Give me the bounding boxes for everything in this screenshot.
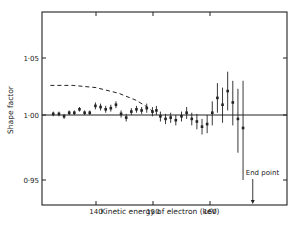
- data-point: [196, 114, 199, 129]
- data-point: [237, 89, 240, 153]
- data-point: [115, 101, 118, 108]
- data-point: [78, 107, 81, 112]
- y-axis-label: Shape factor: [6, 85, 15, 134]
- data-point: [99, 104, 102, 111]
- axis-ticks: 1401501600·951·001·05: [23, 12, 287, 216]
- data-point: [155, 106, 158, 115]
- data-point: [94, 102, 97, 109]
- data-point: [140, 107, 143, 114]
- data-point: [52, 112, 55, 117]
- data-point: [88, 110, 91, 115]
- data-point: [159, 112, 162, 122]
- y-tick-label: 1·00: [23, 112, 39, 120]
- data-point: [226, 72, 229, 111]
- data-point: [175, 115, 178, 125]
- data-point: [104, 106, 107, 113]
- data-point: [130, 108, 133, 115]
- data-point: [185, 107, 188, 119]
- data-point: [201, 119, 204, 135]
- data-point: [216, 83, 219, 113]
- data-point: [120, 110, 123, 117]
- data-point: [211, 101, 214, 125]
- data-point: [145, 104, 148, 113]
- y-tick-label: 0·95: [23, 177, 39, 185]
- data-point: [73, 110, 76, 115]
- shape-factor-chart: 1401501600·951·001·05 End point Kinetic …: [0, 0, 302, 234]
- data-point: [180, 112, 183, 122]
- y-tick-label: 1·05: [23, 55, 39, 63]
- data-point: [242, 81, 245, 180]
- data-point: [58, 112, 61, 117]
- data-point: [135, 106, 138, 113]
- end-point-annotation: End point: [246, 169, 280, 204]
- data-point: [68, 110, 71, 115]
- data-point: [110, 105, 113, 112]
- end-point-label: End point: [246, 169, 280, 177]
- data-point: [206, 115, 209, 133]
- data-point: [169, 113, 172, 123]
- data-point: [83, 110, 86, 115]
- data-points: [52, 72, 244, 180]
- x-axis-label: Kinetic energy of electron (keV): [101, 207, 220, 216]
- data-point: [221, 88, 224, 123]
- data-point: [232, 81, 235, 126]
- theory-dashed-curve: [50, 85, 155, 114]
